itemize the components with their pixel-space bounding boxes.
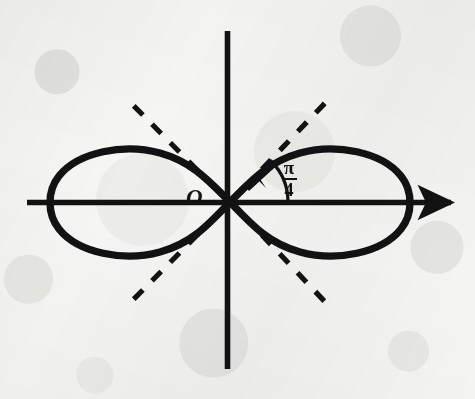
angle-denominator: 4 bbox=[274, 181, 304, 199]
angle-label: π 4 bbox=[274, 158, 304, 199]
lemniscate-plot bbox=[0, 0, 475, 399]
angle-numerator: π bbox=[274, 158, 304, 177]
curve-direction-arrow-tip bbox=[245, 164, 273, 191]
figure-canvas: O π 4 bbox=[0, 0, 475, 399]
origin-label: O bbox=[186, 186, 203, 209]
